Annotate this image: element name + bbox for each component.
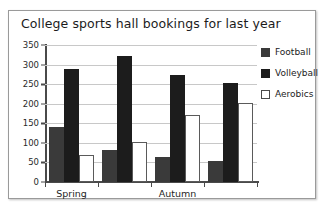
x-axis-tick-mark bbox=[45, 182, 46, 187]
bar-volleyball[interactable] bbox=[223, 83, 238, 182]
x-axis-tick-mark bbox=[151, 182, 152, 187]
bar-volleyball[interactable] bbox=[117, 56, 132, 182]
bar-volleyball[interactable] bbox=[170, 75, 185, 182]
bar-football[interactable] bbox=[155, 157, 170, 182]
chart-legend: FootballVolleyballAerobics bbox=[261, 44, 317, 107]
bar-group bbox=[204, 45, 257, 182]
bar-aerobics[interactable] bbox=[238, 103, 253, 182]
x-axis-tick-labels: SpringAutumn bbox=[45, 188, 259, 202]
x-axis-tick-mark bbox=[257, 182, 258, 187]
chart-title: College sports hall bookings for last ye… bbox=[21, 16, 281, 31]
x-axis-tick-mark bbox=[204, 182, 205, 187]
bar-football[interactable] bbox=[49, 127, 64, 182]
y-axis-tick-marks bbox=[9, 45, 49, 182]
bar-group bbox=[45, 45, 98, 182]
legend-item-aerobics[interactable]: Aerobics bbox=[261, 86, 317, 102]
bar-aerobics[interactable] bbox=[79, 155, 94, 182]
legend-swatch-football-icon bbox=[261, 48, 270, 57]
legend-swatch-aerobics-icon bbox=[261, 90, 270, 99]
plot-area bbox=[45, 45, 257, 182]
legend-label: Football bbox=[275, 47, 311, 57]
bar-aerobics[interactable] bbox=[132, 142, 147, 182]
legend-item-volleyball[interactable]: Volleyball bbox=[261, 65, 317, 81]
legend-label: Volleyball bbox=[275, 68, 318, 78]
legend-item-football[interactable]: Football bbox=[261, 44, 317, 60]
bar-aerobics[interactable] bbox=[185, 115, 200, 182]
bar-football[interactable] bbox=[102, 150, 117, 182]
bar-football[interactable] bbox=[208, 161, 223, 182]
bar-volleyball[interactable] bbox=[64, 69, 79, 183]
x-axis-tick-mark bbox=[98, 182, 99, 187]
bar-group bbox=[151, 45, 204, 182]
x-axis-label-autumn: Autumn bbox=[159, 188, 197, 199]
chart-container: College sports hall bookings for last ye… bbox=[8, 10, 316, 199]
legend-label: Aerobics bbox=[275, 89, 313, 99]
bar-group bbox=[98, 45, 151, 182]
legend-swatch-volleyball-icon bbox=[261, 69, 270, 78]
x-axis-label-spring: Spring bbox=[56, 188, 87, 199]
